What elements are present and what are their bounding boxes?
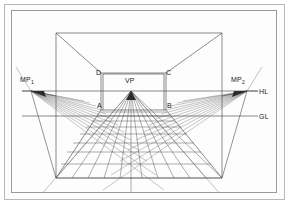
corner-diagonals: [16, 67, 262, 91]
label-vanishing-point: VP: [125, 77, 135, 84]
mp-right-structural-rays: [222, 91, 258, 178]
label-corner-a: A: [97, 102, 102, 109]
perspective-drawing: [0, 0, 290, 209]
label-ground-line: GL: [259, 113, 269, 120]
vp-marker: [126, 91, 136, 100]
label-corner-d: D: [96, 69, 101, 76]
diagram-canvas: MP1 MP2 VP HL GL D C A B: [0, 0, 290, 209]
label-corner-c: C: [166, 69, 171, 76]
label-horizon-line: HL: [259, 88, 268, 95]
label-corner-b: B: [167, 102, 172, 109]
mp-left-structural-rays: [22, 91, 56, 178]
label-mp-left: MP1: [20, 76, 34, 85]
label-mp-right: MP2: [231, 76, 245, 85]
